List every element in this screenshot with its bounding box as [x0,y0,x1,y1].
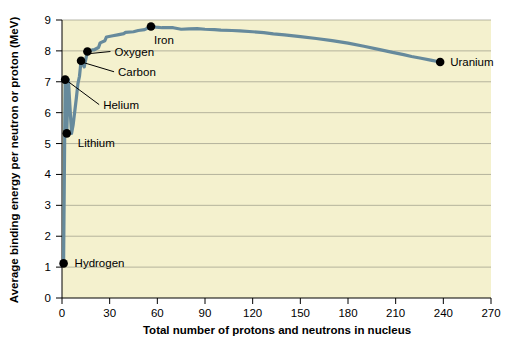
y-tick-label: 0 [45,292,51,304]
y-tick-label: 3 [45,199,51,211]
x-tick-label: 270 [481,307,500,319]
y-tick-label: 5 [45,138,51,150]
marker-helium [61,75,70,84]
y-tick-label: 1 [45,261,51,273]
x-tick-label: 210 [386,307,405,319]
y-tick-label: 8 [45,45,51,57]
x-tick-label: 150 [291,307,310,319]
y-tick-label: 6 [45,107,51,119]
marker-hydrogen [59,259,68,268]
marker-oxygen [83,47,92,56]
x-axis-title: Total number of protons and neutrons in … [143,324,411,336]
marker-uranium [436,58,445,67]
label-carbon: Carbon [118,66,156,78]
x-tick-label: 60 [151,307,164,319]
label-hydrogen: Hydrogen [75,257,125,269]
x-tick-label: 30 [103,307,116,319]
label-iron: Iron [154,34,174,46]
plot-area-background [62,20,491,298]
x-tick-label: 120 [243,307,262,319]
x-tick-label: 90 [199,307,212,319]
label-helium: Helium [103,99,139,111]
marker-iron [147,22,156,31]
plot-background [62,20,491,298]
marker-lithium [62,129,71,138]
y-tick-label: 7 [45,76,51,88]
y-tick-label: 4 [45,168,52,180]
y-axis-title: Average binding energy per neutron or pr… [8,17,20,304]
label-uranium: Uranium [450,56,493,68]
x-tick-label: 180 [338,307,357,319]
x-tick-label: 240 [434,307,453,319]
y-tick-label: 2 [45,230,51,242]
y-tick-label: 9 [45,14,51,26]
x-tick-label: 0 [59,307,65,319]
label-lithium: Lithium [78,137,115,149]
marker-carbon [77,56,86,65]
chart-svg: 0306090120150180210240270 0123456789 Hyd… [0,0,522,357]
binding-energy-chart: 0306090120150180210240270 0123456789 Hyd… [0,0,522,357]
label-oxygen: Oxygen [114,46,154,58]
